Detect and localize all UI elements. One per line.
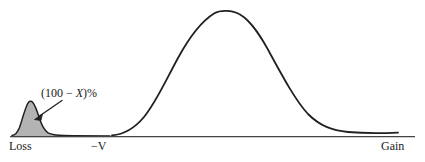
axis-label-gain: Gain (381, 140, 404, 152)
distribution-figure: (100 − X)% Loss −V Gain (0, 0, 425, 162)
annotation-variable: X (76, 86, 83, 100)
callout-arrow-icon (35, 101, 63, 121)
distribution-plot (0, 0, 425, 162)
axis-label-threshold: −V (91, 140, 106, 152)
axis-label-loss: Loss (9, 140, 32, 152)
annotation-suffix: )% (83, 86, 97, 100)
annotation-prefix: (100 − (41, 86, 76, 100)
gain-mode-curve (112, 11, 398, 135)
loss-percent-annotation: (100 − X)% (41, 87, 97, 99)
